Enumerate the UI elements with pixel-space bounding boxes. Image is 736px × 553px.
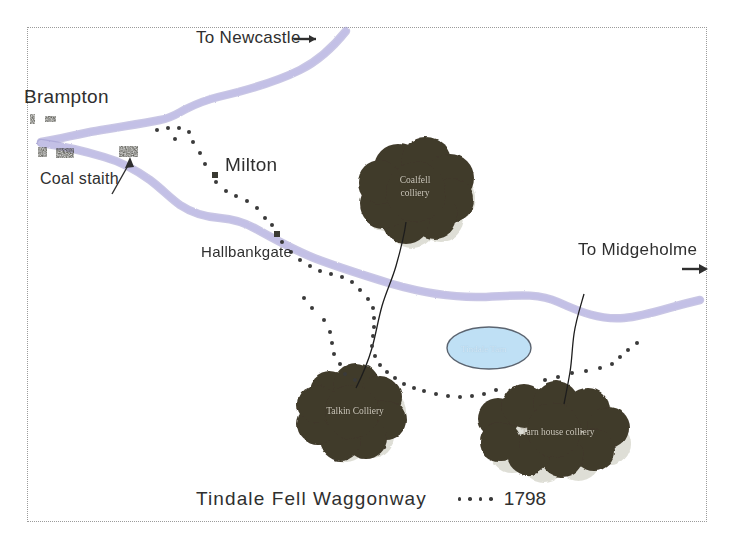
caption-year: 1798 [504, 488, 546, 510]
map-canvas: To Newcastle To Midgeholme Brampton Milt… [0, 0, 736, 553]
map-caption-legend: Tindale Fell Waggonway 1798 [196, 488, 546, 510]
direction-label-midgeholme: To Midgeholme [578, 240, 697, 260]
branch-lines [356, 222, 584, 404]
caption-waggonway-title: Tindale Fell Waggonway [196, 488, 427, 510]
direction-label-newcastle: To Newcastle [196, 28, 301, 48]
place-label-brampton: Brampton [24, 86, 109, 108]
place-label-milton: Milton [225, 154, 277, 176]
place-label-coal-staith: Coal staith [40, 170, 119, 188]
legend-dotted-line-sample [458, 497, 493, 501]
place-label-hallbankgate: Hallbankgate [201, 243, 292, 260]
water-tindale-tarn [447, 327, 531, 369]
arrow-midgeholme-icon [682, 264, 708, 274]
map-vector-layer [0, 0, 736, 553]
